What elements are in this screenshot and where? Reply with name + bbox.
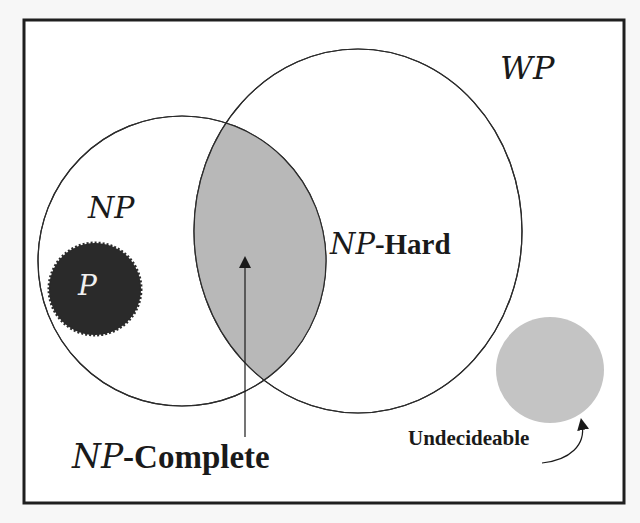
np-hard-label: NP-Hard — [330, 230, 451, 259]
wp-label: WP — [500, 52, 554, 84]
np-complete-label-prefix: NP — [72, 437, 123, 476]
undecidable-set-circle — [496, 317, 604, 423]
np-complete-label-suffix: -Complete — [123, 439, 270, 475]
np-hard-label-suffix: -Hard — [375, 228, 451, 260]
np-hard-label-prefix: NP — [330, 227, 375, 261]
undecidable-label: Undecideable — [408, 428, 529, 449]
np-complete-label: NP-Complete — [72, 440, 270, 474]
np-label: NP — [88, 193, 134, 223]
p-label: P — [78, 272, 97, 300]
